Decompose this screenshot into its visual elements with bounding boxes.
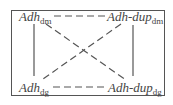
node-adh-dg: Adhdg [19, 81, 49, 97]
node-adh-dup-dm: Adh-dupdm [107, 10, 163, 26]
node-label: Adh-dup [107, 9, 152, 24]
node-label: Adh-dup [108, 80, 153, 95]
edge-diagonal-tl-br [46, 24, 126, 80]
node-subscript: dg [153, 87, 162, 97]
node-subscript: dm [152, 16, 164, 26]
node-subscript: dm [40, 16, 52, 26]
node-adh-dup-dg: Adh-dupdg [108, 81, 162, 97]
node-adh-dm: Adhdm [19, 10, 51, 26]
node-label: Adh [19, 80, 40, 95]
edge-diagonal-tr-bl [43, 24, 121, 79]
node-subscript: dg [40, 87, 49, 97]
node-label: Adh [19, 9, 40, 24]
